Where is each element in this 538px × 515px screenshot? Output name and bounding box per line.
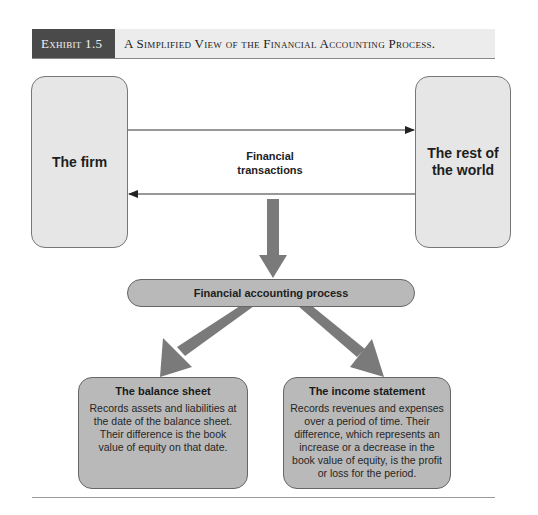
income-statement-description: Records revenues and expenses over a per… xyxy=(284,402,450,480)
balance-sheet-title: The balance sheet xyxy=(79,385,247,397)
process-label: Financial accounting process xyxy=(194,287,349,299)
arrow-down-to-process xyxy=(259,199,287,278)
financial-transactions-label: Financial transactions xyxy=(225,149,315,177)
income-statement-node: The income statement Records revenues an… xyxy=(283,377,451,489)
financial-accounting-process-node: Financial accounting process xyxy=(127,279,415,307)
arrow-to-income-statement xyxy=(298,306,384,377)
income-statement-title: The income statement xyxy=(284,385,450,397)
balance-sheet-node: The balance sheet Records assets and lia… xyxy=(78,377,248,489)
balance-sheet-description: Records assets and liabilities at the da… xyxy=(79,402,247,454)
bottom-divider xyxy=(32,497,495,498)
firm-label: The firm xyxy=(52,154,107,170)
arrow-to-balance-sheet xyxy=(160,306,254,377)
rest-of-world-node: The rest of the world xyxy=(415,76,511,248)
rest-of-world-label: The rest of the world xyxy=(423,145,503,179)
firm-node: The firm xyxy=(31,76,128,248)
